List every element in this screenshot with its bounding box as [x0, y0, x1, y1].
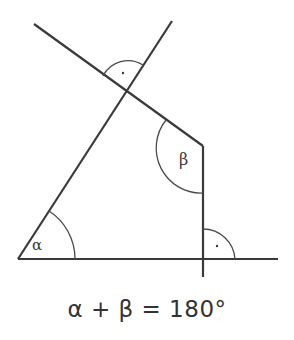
alpha-angle-arc — [49, 211, 75, 259]
base-right-angle-dot — [216, 245, 218, 247]
beta-upper-side-line — [34, 24, 203, 146]
crossing-right-angle-dot — [122, 72, 124, 74]
beta-label: β — [179, 150, 188, 169]
geometry-diagram: α β — [0, 0, 294, 340]
angle-sum-formula: α + β = 180° — [0, 296, 294, 322]
base-right-angle-arc — [203, 229, 235, 259]
alpha-side-line — [18, 21, 172, 259]
alpha-label: α — [32, 236, 42, 254]
